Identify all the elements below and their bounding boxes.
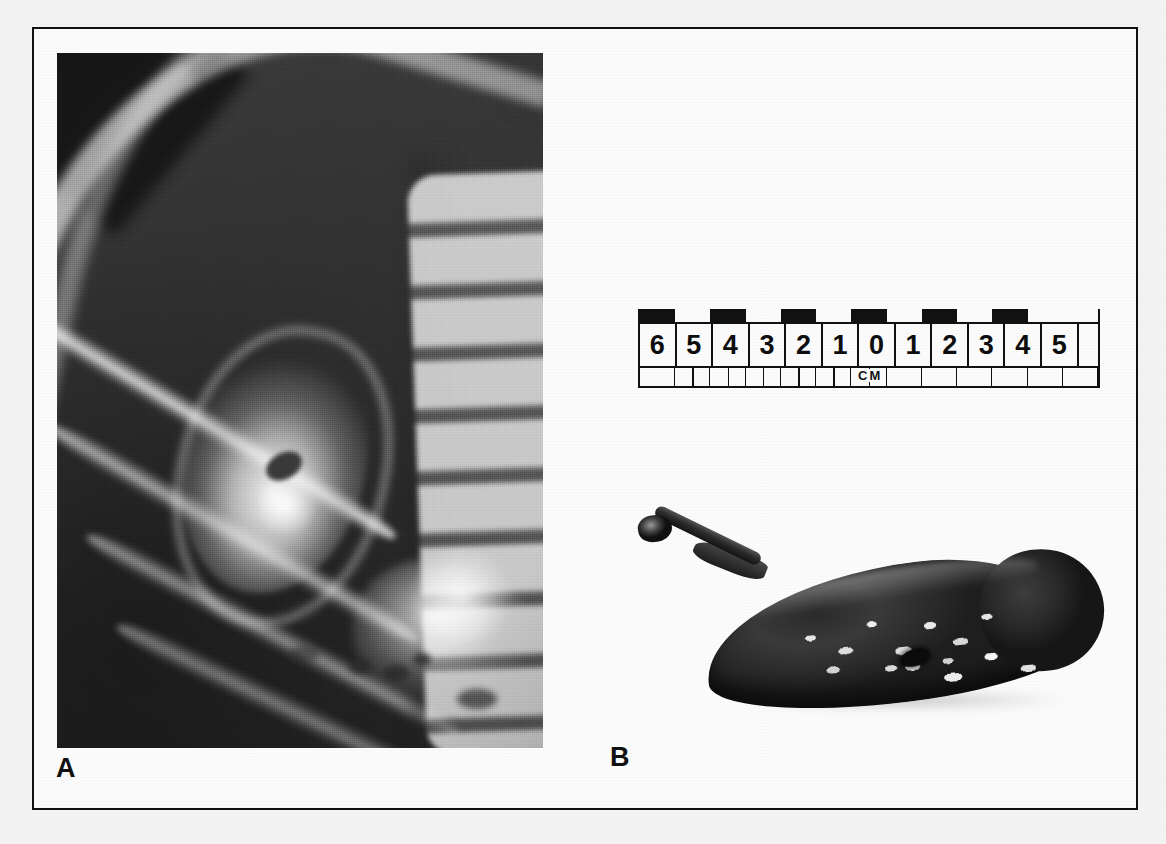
ruler-sub-cell <box>887 368 922 386</box>
ruler-contrast-strip <box>638 309 1100 322</box>
printed-page: A 654321012345 CM <box>0 0 1166 844</box>
ruler-sub-cell <box>675 368 710 386</box>
radiograph-image <box>57 53 543 748</box>
ruler-cell-2: 4 <box>713 324 750 366</box>
ruler-sub-cell <box>992 368 1027 386</box>
ruler-sub-cell <box>710 368 745 386</box>
ruler-cell-1: 5 <box>677 324 714 366</box>
ruler-sub-cell <box>1028 368 1063 386</box>
ruler-cell-10: 4 <box>1005 324 1042 366</box>
halftone-grain <box>57 53 543 748</box>
ruler-subdivision-row: CM <box>638 368 1100 388</box>
ruler-strip-cell <box>675 309 710 322</box>
ruler-cell-4: 2 <box>786 324 823 366</box>
centimetre-ruler: 654321012345 CM <box>638 309 1100 388</box>
ruler-strip-cell <box>1028 309 1063 322</box>
ruler-sub-cell <box>640 368 675 386</box>
ruler-strip-cell <box>1063 309 1098 322</box>
figure-frame: A 654321012345 CM <box>32 27 1138 810</box>
panel-label-a: A <box>56 755 76 782</box>
ruler-sub-cell <box>746 368 781 386</box>
ruler-strip-cell <box>710 309 745 322</box>
ruler-strip-cell <box>781 309 816 322</box>
ruler-strip-cell <box>992 309 1027 322</box>
ruler-cell-0: 6 <box>640 324 677 366</box>
ruler-strip-cell <box>851 309 886 322</box>
panel-b-specimen: 654321012345 CM <box>594 53 1118 748</box>
ruler-cell-8: 2 <box>932 324 969 366</box>
ruler-strip-cell <box>887 309 922 322</box>
gallbladder-specimen-photo <box>632 513 1092 728</box>
ruler-sub-cell <box>1063 368 1098 386</box>
panel-label-b: B <box>610 744 630 771</box>
ruler-unit-label: CM <box>856 369 884 382</box>
ruler-number-row: 654321012345 <box>638 322 1100 368</box>
ruler-cell-11: 5 <box>1042 324 1079 366</box>
ruler-cell-blank <box>1079 324 1099 366</box>
ruler-strip-cell <box>957 309 992 322</box>
ruler-strip-cell <box>922 309 957 322</box>
ruler-sub-cell <box>781 368 816 386</box>
ruler-cell-3: 3 <box>750 324 787 366</box>
ruler-sub-cell <box>816 368 851 386</box>
ruler-cell-5: 1 <box>823 324 860 366</box>
ruler-strip-cell <box>746 309 781 322</box>
ruler-cell-6: 0 <box>859 324 896 366</box>
ruler-strip-cell <box>640 309 675 322</box>
ruler-sub-cell <box>922 368 957 386</box>
ruler-strip-cell <box>816 309 851 322</box>
ruler-cell-7: 1 <box>896 324 933 366</box>
panel-a-radiograph <box>57 53 543 748</box>
ruler-cell-9: 3 <box>969 324 1006 366</box>
ruler-sub-cell <box>957 368 992 386</box>
